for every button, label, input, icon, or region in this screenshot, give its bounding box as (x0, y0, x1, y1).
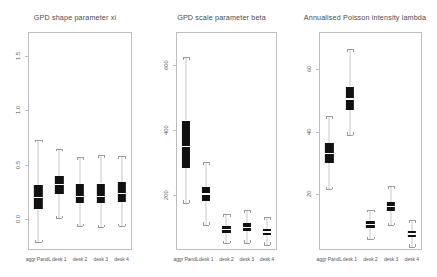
cap-lower (244, 243, 250, 244)
whisker-lower (370, 228, 371, 239)
cap-lower-arm (353, 132, 354, 135)
cap-lower-arm (347, 132, 348, 135)
cap-lower-arm (209, 222, 210, 225)
cap-upper-arm (209, 162, 210, 165)
boxplot-box (216, 0, 236, 277)
boxplot-box (70, 0, 91, 277)
whisker-upper (79, 157, 80, 183)
whisker-lower (349, 110, 350, 135)
cap-lower (77, 226, 83, 227)
whisker-upper (246, 210, 247, 223)
boxplot-figure: GPD shape parameter xi 0.00.51.01.5aggr … (0, 0, 437, 277)
cap-upper-arm (42, 140, 43, 143)
cap-lower-arm (62, 216, 63, 219)
cap-lower (118, 226, 124, 227)
cap-upper-arm (203, 162, 204, 165)
cap-upper-arm (409, 220, 410, 223)
whisker-lower (246, 231, 247, 242)
boxplot-box (319, 0, 340, 277)
cap-upper-arm (183, 57, 184, 60)
cap-lower (409, 247, 415, 248)
cap-lower-arm (118, 224, 119, 227)
cap-upper-arm (415, 220, 416, 223)
boxplot-box (90, 0, 111, 277)
boxplot-box (49, 0, 70, 277)
y-axis-tick-label: 0.0 (14, 211, 22, 227)
whisker-upper (411, 220, 412, 230)
median-line (222, 229, 230, 230)
whisker-upper (329, 116, 330, 142)
median-line (243, 227, 251, 228)
boxplot-box (111, 0, 132, 277)
cap-lower-arm (250, 240, 251, 243)
cap-lower (326, 189, 332, 190)
cap-upper-arm (374, 210, 375, 213)
box-iqr (97, 184, 105, 204)
whisker-lower (186, 168, 187, 203)
cap-lower-arm (244, 240, 245, 243)
boxplot-box (176, 0, 196, 277)
cap-upper-arm (244, 210, 245, 213)
cap-lower-arm (332, 187, 333, 190)
whisker-lower (226, 233, 227, 243)
whisker-lower (100, 203, 101, 227)
cap-lower-arm (98, 225, 99, 228)
cap-lower-arm (367, 237, 368, 240)
cap-upper-arm (83, 157, 84, 160)
y-axis-tick-label: 600 (162, 57, 170, 73)
whisker-lower (329, 163, 330, 189)
boxplot-box (196, 0, 216, 277)
cap-upper-arm (118, 156, 119, 159)
panel-gpd-shape-xi: GPD shape parameter xi 0.00.51.01.5aggr … (0, 0, 150, 277)
whisker-lower (206, 201, 207, 225)
y-axis-tick-label: 40 (305, 124, 313, 140)
x-axis-tick-label: desk 4 (397, 256, 426, 262)
boxplot-box (237, 0, 257, 277)
cap-lower-arm (223, 241, 224, 244)
box-iqr (182, 121, 190, 168)
whisker-lower (121, 202, 122, 226)
cap-lower-arm (394, 223, 395, 226)
y-axis-tick-label: 20 (305, 186, 313, 202)
boxplot-box (381, 0, 402, 277)
whisker-upper (100, 155, 101, 183)
cap-lower-arm (230, 241, 231, 244)
median-line (325, 153, 333, 154)
cap-lower (347, 135, 353, 136)
cap-lower-arm (125, 224, 126, 227)
y-axis-tick-label: 1.5 (14, 48, 22, 64)
panel-poisson-lambda: Annualised Poisson intensity lambda 2040… (293, 0, 437, 277)
cap-lower (35, 242, 41, 243)
cap-lower-arm (388, 223, 389, 226)
cap-upper-arm (347, 49, 348, 52)
cap-lower-arm (415, 244, 416, 247)
median-line (387, 206, 395, 207)
cap-lower (203, 225, 209, 226)
panel-gpd-scale-beta: GPD scale parameter beta 200400600aggr P… (150, 0, 293, 277)
whisker-upper (370, 210, 371, 222)
y-axis-tick-label: 1.0 (14, 102, 22, 118)
median-line (117, 193, 125, 194)
cap-upper-arm (223, 214, 224, 217)
cap-upper-arm (189, 57, 190, 60)
cap-lower-arm (56, 216, 57, 219)
cap-lower-arm (326, 187, 327, 190)
whisker-upper (349, 49, 350, 86)
whisker-upper (59, 149, 60, 176)
cap-upper-arm (367, 210, 368, 213)
median-line (182, 146, 190, 147)
box-iqr (76, 184, 84, 204)
whisker-lower (38, 209, 39, 243)
cap-lower-arm (270, 242, 271, 245)
boxplot-box (401, 0, 422, 277)
boxplot-box (340, 0, 361, 277)
boxplot-box (257, 0, 277, 277)
cap-lower-arm (264, 242, 265, 245)
cap-lower-arm (409, 244, 410, 247)
cap-upper-arm (388, 186, 389, 189)
y-axis-tick-label: 60 (305, 61, 313, 77)
cap-lower (264, 245, 270, 246)
cap-lower (388, 225, 394, 226)
cap-lower-arm (35, 240, 36, 243)
median-line (366, 224, 374, 225)
